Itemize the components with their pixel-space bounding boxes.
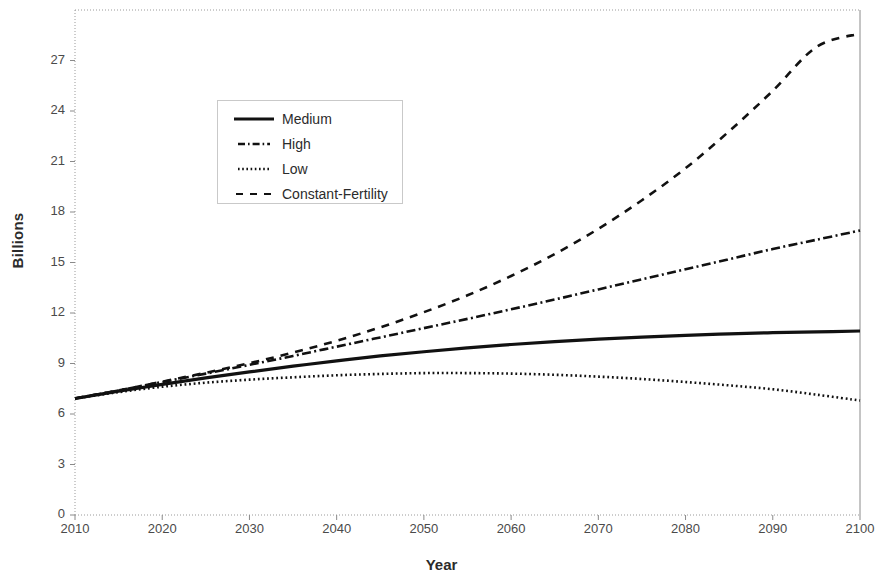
population-projection-chart: Billions Year 0369121518212427 201020202… — [0, 0, 883, 585]
chart-legend: Medium High Low Constant-Fertility — [217, 100, 403, 204]
legend-swatch-high — [232, 137, 276, 151]
axes — [70, 10, 860, 520]
legend-item: Medium — [232, 109, 332, 129]
plot-area — [0, 0, 883, 585]
data-series — [75, 34, 860, 401]
legend-item: Low — [232, 159, 308, 179]
legend-swatch-medium — [232, 112, 276, 126]
legend-label-medium: Medium — [282, 111, 332, 127]
series-line — [75, 231, 860, 399]
legend-label-high: High — [282, 136, 311, 152]
legend-label-low: Low — [282, 161, 308, 177]
legend-swatch-constant-fertility — [232, 187, 276, 201]
legend-swatch-low — [232, 162, 276, 176]
legend-label-constant-fertility: Constant-Fertility — [282, 186, 388, 202]
series-line — [75, 331, 860, 399]
series-line — [75, 34, 860, 399]
legend-item: Constant-Fertility — [232, 184, 388, 204]
legend-item: High — [232, 134, 311, 154]
